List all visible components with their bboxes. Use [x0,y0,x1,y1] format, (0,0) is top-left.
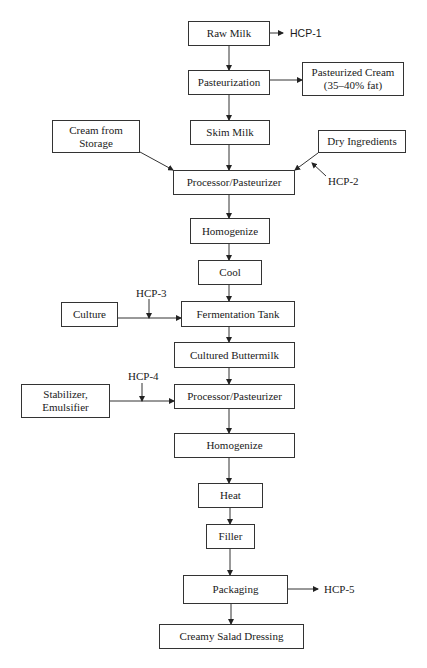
node-label-line1: Pasteurized Cream [312,66,395,79]
node-label: Raw Milk [207,27,251,40]
node-label: Fermentation Tank [196,308,279,321]
node-creamy-salad-dressing: Creamy Salad Dressing [159,624,304,649]
node-label-line2: Emulsifier [42,401,88,414]
node-stabilizer-emulsifier: Stabilizer, Emulsifier [21,384,110,418]
hcp-3-label: HCP-3 [136,287,167,300]
node-pasteurized-cream: Pasteurized Cream (35–40% fat) [302,62,404,96]
arrow-hcp2 [312,163,326,176]
node-cream-from-storage: Cream from Storage [52,120,140,153]
node-homogenize-2: Homogenize [174,433,295,458]
node-heat: Heat [198,483,263,508]
node-label: Homogenize [206,439,262,452]
hcp-2-label: HCP-2 [328,175,359,188]
node-processor-pasteurizer-2: Processor/Pasteurizer [174,384,295,409]
node-label: Pasteurization [198,76,260,89]
node-label: Culture [73,308,106,321]
node-label: Homogenize [202,225,258,238]
hcp-4-label: HCP-4 [128,370,159,383]
node-dry-ingredients: Dry Ingredients [318,130,406,153]
node-label: Processor/Pasteurizer [187,176,282,189]
node-label: Dry Ingredients [327,135,396,148]
node-label: Heat [220,489,241,502]
node-processor-pasteurizer-1: Processor/Pasteurizer [173,170,295,195]
node-filler: Filler [206,524,255,549]
connector-layer [0,0,427,668]
hcp-1-label: HCP-1 [290,27,322,40]
arrow-dry-ingredients-processor [295,153,318,170]
hcp-5-label: HCP-5 [324,583,355,596]
node-label: Filler [219,530,243,543]
node-label: Skim Milk [206,126,253,139]
node-skim-milk: Skim Milk [190,120,270,145]
node-label: Cool [219,266,240,279]
node-label: Creamy Salad Dressing [180,630,284,643]
node-cultured-buttermilk: Cultured Buttermilk [174,342,295,368]
node-label: Packaging [213,583,259,596]
node-pasteurization: Pasteurization [188,70,270,95]
node-label-line2: (35–40% fat) [324,79,382,92]
node-label: Processor/Pasteurizer [187,390,282,403]
node-label: Cultured Buttermilk [190,349,279,362]
node-raw-milk: Raw Milk [188,21,270,46]
node-homogenize-1: Homogenize [190,218,270,244]
node-packaging: Packaging [183,575,288,604]
node-label-line2: Storage [79,137,113,150]
node-cool: Cool [198,260,262,285]
node-label-line1: Cream from [69,124,122,137]
node-fermentation-tank: Fermentation Tank [181,301,295,327]
node-label-line1: Stabilizer, [43,388,87,401]
arrow-cream-storage-processor [140,152,173,170]
node-culture: Culture [61,302,118,327]
